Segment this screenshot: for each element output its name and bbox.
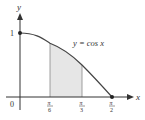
point-pi2-0 [110, 95, 114, 99]
y-axis-label: y [16, 2, 21, 12]
x-tick-pi-2: π 2 [109, 100, 115, 114]
cosine-chart: y x 0 1 y = cos x π 6 π 3 π 2 [0, 0, 145, 120]
point-0-1 [18, 31, 22, 35]
pi-3-numerator: π [80, 100, 84, 106]
pi-6-denominator: 6 [48, 107, 51, 113]
pi-2-numerator: π [110, 100, 114, 106]
pi-3-denominator: 3 [80, 107, 83, 113]
x-tick-pi-6: π 6 [47, 100, 53, 114]
x-axis-label: x [135, 92, 140, 102]
x-tick-pi-3: π 3 [79, 100, 85, 114]
x-axis-arrow-icon [127, 94, 134, 100]
curve-label: y = cos x [72, 38, 104, 48]
origin-label: 0 [10, 100, 14, 109]
y-tick-1-label: 1 [10, 29, 14, 38]
pi-2-denominator: 2 [110, 107, 113, 113]
pi-6-numerator: π [48, 100, 52, 106]
y-axis-arrow-icon [17, 13, 23, 20]
